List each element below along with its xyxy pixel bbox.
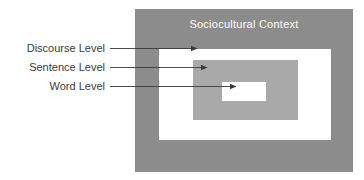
callout-leader-lines	[0, 0, 364, 180]
diagram-canvas: Sociocultural Context Discourse Level Se…	[0, 0, 364, 180]
